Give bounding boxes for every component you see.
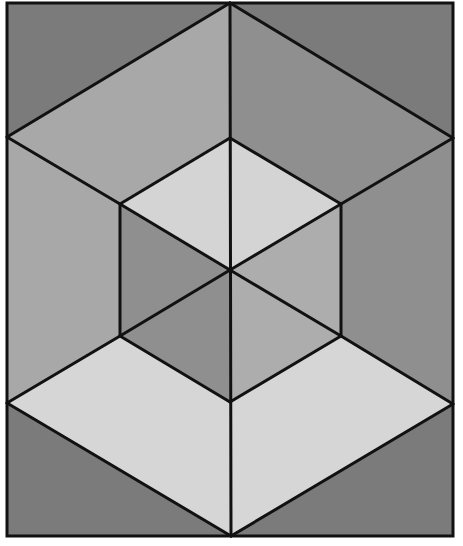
geometric-figure xyxy=(0,0,463,546)
isometric-cube-diagram xyxy=(0,0,463,546)
